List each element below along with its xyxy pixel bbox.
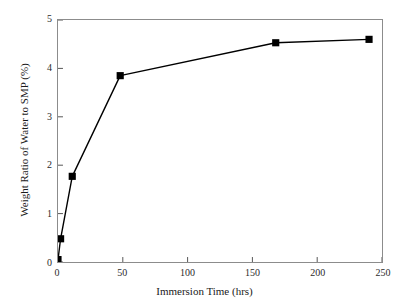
y-tick-label: 4 <box>40 63 52 73</box>
data-series-markers <box>58 36 373 262</box>
y-tick-label: 2 <box>40 160 52 170</box>
plot-area <box>57 19 383 263</box>
data-point-marker <box>365 36 372 43</box>
y-axis-title: Weight Ratio of Water to SMP (%) <box>18 30 30 250</box>
y-tick-label: 3 <box>40 112 52 122</box>
x-tick-label: 100 <box>180 268 195 278</box>
y-tick-label: 1 <box>40 209 52 219</box>
x-tick-label: 200 <box>310 268 325 278</box>
data-point-marker <box>272 39 279 46</box>
y-tick-label: 0 <box>40 258 52 268</box>
x-tick-label: 150 <box>245 268 260 278</box>
data-point-marker <box>69 173 76 180</box>
chart-figure: 050100150200250 012345 Immersion Time (h… <box>0 0 409 307</box>
x-tick-label: 50 <box>117 268 127 278</box>
data-point-marker <box>58 256 62 262</box>
x-tick-label: 250 <box>376 268 391 278</box>
data-point-marker <box>117 72 124 79</box>
y-tick-label: 5 <box>40 14 52 24</box>
tick-marks <box>58 20 382 262</box>
data-point-marker <box>58 235 64 242</box>
data-series-line <box>58 39 369 259</box>
x-axis-title: Immersion Time (hrs) <box>0 285 409 297</box>
x-tick-label: 0 <box>55 268 60 278</box>
line-chart-svg <box>58 20 382 262</box>
